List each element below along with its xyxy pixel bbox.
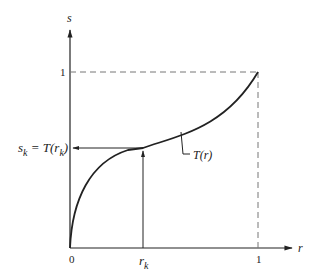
- curve-label: T(r): [193, 148, 212, 162]
- rk-label: rk: [139, 253, 149, 271]
- y-axis-label: s: [67, 11, 72, 25]
- origin-label: 0: [69, 253, 75, 265]
- y-one-label: 1: [60, 66, 66, 78]
- sk-label: sk = T(rk): [18, 140, 68, 158]
- x-one-label: 1: [256, 253, 262, 265]
- transformation-diagram: s r 1 0 1 rk sk = T(rk) T(r): [0, 0, 336, 277]
- transformation-curve: [70, 72, 258, 248]
- x-axis-label: r: [298, 241, 303, 255]
